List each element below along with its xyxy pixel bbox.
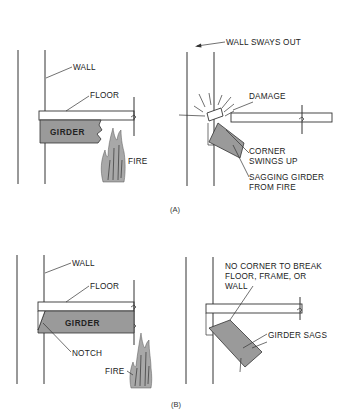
girder-label: GIRDER: [65, 319, 100, 328]
floor-slab: [231, 113, 332, 122]
no-corner-label-1: NO CORNER TO BREAK: [225, 262, 322, 271]
sagging-girder: [209, 320, 262, 367]
panel-b-label: (B): [171, 400, 182, 409]
wall-sways-label: WALL SWAYS OUT: [226, 38, 301, 47]
no-corner-label-2: FLOOR, FRAME, OR: [225, 272, 306, 281]
floor-slab: [39, 111, 134, 120]
fire-label: FIRE: [128, 157, 148, 166]
wall-leader: [45, 263, 71, 273]
floor-slab: [206, 304, 302, 313]
wall-label: WALL: [72, 259, 95, 268]
sagging-label-2: FROM FIRE: [249, 183, 296, 192]
floor-leader: [66, 286, 89, 302]
damage-leader: [233, 102, 253, 110]
wall-leader: [46, 67, 72, 78]
no-corner-label-3: WALL: [225, 282, 248, 291]
floor-slab: [38, 302, 134, 311]
broken-floor-piece: [207, 108, 223, 121]
sagging-label-1: SAGGING GIRDER: [249, 173, 324, 182]
floor-leader: [66, 96, 89, 111]
sway-arrow-icon: [195, 44, 202, 48]
floor-label: FLOOR: [90, 91, 119, 100]
corner-label-1: CORNER: [249, 147, 286, 156]
girder-label: GIRDER: [50, 128, 85, 137]
damage-label: DAMAGE: [249, 92, 286, 101]
wall-label: WALL: [73, 63, 96, 72]
corner-label-2: SWINGS UP: [249, 157, 298, 166]
no-corner-leader: [230, 286, 253, 320]
panel-b-right: NO CORNER TO BREAK FLOOR, FRAME, OR WALL…: [186, 257, 327, 384]
girder-fire-diagram: GIRDER WALL FLOOR FIRE WALL SWAYS OUT: [0, 0, 353, 419]
fire-label: FIRE: [105, 367, 125, 376]
notch-label: NOTCH: [72, 349, 102, 358]
floor-label: FLOOR: [90, 282, 119, 291]
girder-sags-label: GIRDER SAGS: [268, 331, 327, 340]
panel-a-right: WALL SWAYS OUT DAMAGE CORNER SWINGS UP S…: [179, 38, 332, 192]
panel-a-label: (A): [170, 205, 181, 214]
panel-a-left: GIRDER WALL FLOOR FIRE: [18, 50, 148, 184]
panel-b-left: GIRDER WALL FLOOR NOTCH FIRE: [17, 255, 152, 388]
